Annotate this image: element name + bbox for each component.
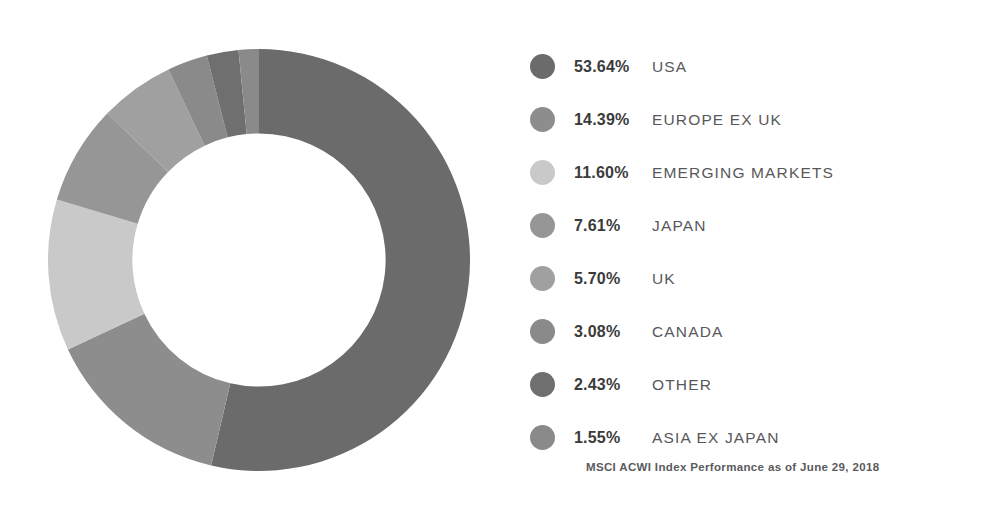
legend-swatch-icon: [530, 319, 555, 344]
legend-percent: 5.70%: [574, 270, 652, 288]
legend-percent: 1.55%: [574, 429, 652, 447]
legend-percent: 14.39%: [574, 111, 652, 129]
legend-percent: 3.08%: [574, 323, 652, 341]
legend-percent: 53.64%: [574, 58, 652, 76]
donut-chart: [48, 49, 470, 471]
donut-chart-figure: 53.64% USA 14.39% EUROPE EX UK 11.60% EM…: [0, 0, 984, 522]
legend-item-japan[interactable]: 7.61% JAPAN: [530, 199, 950, 252]
legend-swatch-icon: [530, 372, 555, 397]
legend: 53.64% USA 14.39% EUROPE EX UK 11.60% EM…: [530, 40, 950, 464]
donut-slice-group: [48, 49, 470, 471]
legend-percent: 2.43%: [574, 376, 652, 394]
legend-label: JAPAN: [652, 217, 707, 235]
legend-label: CANADA: [652, 323, 724, 341]
legend-item-canada[interactable]: 3.08% CANADA: [530, 305, 950, 358]
legend-item-emerging-markets[interactable]: 11.60% EMERGING MARKETS: [530, 146, 950, 199]
legend-item-other[interactable]: 2.43% OTHER: [530, 358, 950, 411]
legend-swatch-icon: [530, 213, 555, 238]
legend-item-asia-ex-japan[interactable]: 1.55% ASIA EX JAPAN: [530, 411, 950, 464]
legend-swatch-icon: [530, 425, 555, 450]
legend-swatch-icon: [530, 266, 555, 291]
legend-item-uk[interactable]: 5.70% UK: [530, 252, 950, 305]
legend-swatch-icon: [530, 107, 555, 132]
legend-label: UK: [652, 270, 676, 288]
legend-item-usa[interactable]: 53.64% USA: [530, 40, 950, 93]
legend-swatch-icon: [530, 160, 555, 185]
legend-label: USA: [652, 58, 687, 76]
legend-label: EMERGING MARKETS: [652, 164, 834, 182]
donut-chart-svg: [48, 49, 470, 471]
legend-label: ASIA EX JAPAN: [652, 429, 780, 447]
legend-percent: 7.61%: [574, 217, 652, 235]
legend-item-europe-ex-uk[interactable]: 14.39% EUROPE EX UK: [530, 93, 950, 146]
legend-percent: 11.60%: [574, 164, 652, 182]
legend-label: EUROPE EX UK: [652, 111, 782, 129]
legend-swatch-icon: [530, 54, 555, 79]
chart-footnote: MSCI ACWI Index Performance as of June 2…: [586, 461, 879, 473]
legend-label: OTHER: [652, 376, 712, 394]
